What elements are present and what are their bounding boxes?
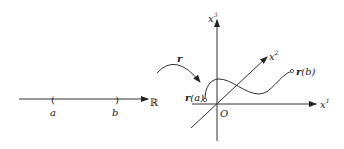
map-label-r: r xyxy=(177,53,183,64)
end-point-marker xyxy=(290,69,293,72)
label-b: b xyxy=(112,107,118,118)
axis-x2-label: x2 xyxy=(269,49,279,62)
axis-x3-label: x3 xyxy=(208,11,218,24)
interval-left-bracket: ( xyxy=(51,94,55,105)
origin-label: O xyxy=(220,108,228,119)
start-point-label: r(a) xyxy=(185,92,204,103)
parametric-curve: r(a) r(b) xyxy=(185,66,316,103)
end-point-label: r(b) xyxy=(296,66,316,77)
interval-right-bracket: ) xyxy=(115,94,119,105)
reals-label: ℝ xyxy=(150,97,159,108)
curve-diagram: ( ) a b ℝ r x3 x2 x1 O r(a) r(b) xyxy=(0,0,344,149)
map-arrow: r xyxy=(157,53,200,82)
real-line: ( ) a b ℝ xyxy=(19,94,159,118)
label-a: a xyxy=(50,107,56,118)
axis-x1-label: x1 xyxy=(320,97,329,110)
curved-arrow-icon xyxy=(157,64,200,82)
curve-path xyxy=(205,71,292,99)
